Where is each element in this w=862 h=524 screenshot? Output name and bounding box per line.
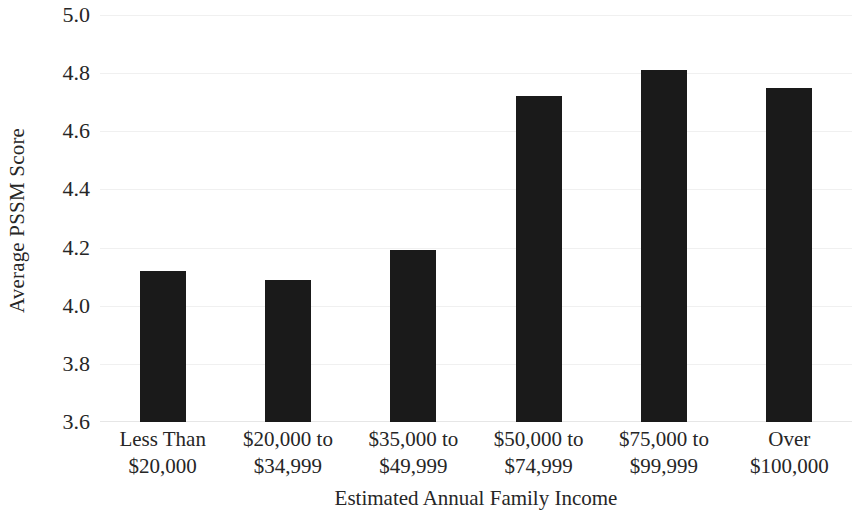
plot-area (100, 15, 852, 422)
y-axis-tick-label: 3.8 (63, 351, 91, 377)
bars-layer (100, 15, 852, 422)
x-axis-tick-label: $20,000 to$34,999 (225, 426, 350, 480)
y-axis-tick-labels: 5.04.84.64.44.24.03.83.6 (36, 0, 98, 440)
y-axis-tick-label: 4.0 (63, 293, 91, 319)
x-axis-tick-label: $75,000 to$99,999 (601, 426, 726, 480)
bar (140, 271, 186, 422)
x-axis-tick-label-line: $99,999 (601, 453, 726, 480)
bar (641, 70, 687, 422)
x-axis-tick-label-line: $74,999 (476, 453, 601, 480)
y-axis-title-text: Average PSSM Score (6, 127, 31, 312)
x-axis-tick-label-line: $49,999 (351, 453, 476, 480)
x-axis-tick-label-line: Over (727, 426, 852, 453)
y-axis-tick-label: 3.6 (63, 409, 91, 435)
bar (766, 88, 812, 422)
bar (390, 250, 436, 422)
x-axis-tick-label-line: $20,000 to (225, 426, 350, 453)
x-axis-tick-label-line: Less Than (100, 426, 225, 453)
x-axis-tick-label: $35,000 to$49,999 (351, 426, 476, 480)
x-axis-tick-label: Less Than$20,000 (100, 426, 225, 480)
y-axis-tick-label: 4.4 (63, 176, 91, 202)
x-axis-tick-label-line: $100,000 (727, 453, 852, 480)
y-axis-title: Average PSSM Score (0, 0, 36, 440)
x-axis-tick-label: $50,000 to$74,999 (476, 426, 601, 480)
x-axis-tick-label: Over$100,000 (727, 426, 852, 480)
x-axis-tick-labels: Less Than$20,000$20,000 to$34,999$35,000… (100, 426, 852, 484)
y-axis-tick-label: 4.8 (63, 60, 91, 86)
bar-chart-figure: Average PSSM Score 5.04.84.64.44.24.03.8… (0, 0, 862, 524)
x-axis-tick-label-line: $34,999 (225, 453, 350, 480)
y-axis-tick-label: 4.2 (63, 235, 91, 261)
y-axis-tick-label: 4.6 (63, 118, 91, 144)
x-axis-tick-label-line: $35,000 to (351, 426, 476, 453)
bar (516, 96, 562, 422)
y-axis-tick-label: 5.0 (63, 2, 91, 28)
x-axis-title: Estimated Annual Family Income (100, 486, 852, 511)
x-axis-title-text: Estimated Annual Family Income (335, 486, 618, 510)
x-axis-tick-label-line: $75,000 to (601, 426, 726, 453)
x-axis-tick-label-line: $20,000 (100, 453, 225, 480)
x-axis-tick-label-line: $50,000 to (476, 426, 601, 453)
bar (265, 280, 311, 422)
